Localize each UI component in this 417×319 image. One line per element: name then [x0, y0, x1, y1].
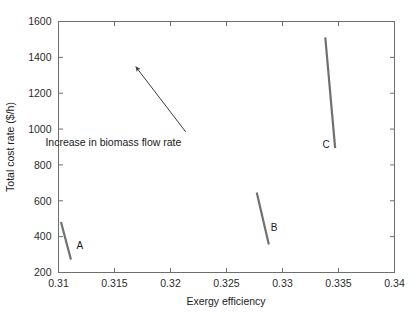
x-tick-label: 0.32 — [160, 277, 181, 289]
scatter-plot-figure: 0.310.3150.320.3250.330.3350.34 20040060… — [0, 0, 417, 319]
y-tick-label: 1200 — [28, 87, 52, 99]
y-tick-label: 600 — [34, 195, 52, 207]
y-tick-label: 800 — [34, 159, 52, 171]
series-label-a: A — [76, 240, 83, 251]
x-tick-label: 0.335 — [325, 277, 351, 289]
annotation-group: Increase in biomass flow rate — [45, 67, 185, 148]
y-tick-label: 1600 — [28, 15, 52, 27]
data-series-group — [61, 37, 335, 259]
y-tick-label: 1400 — [28, 51, 52, 63]
y-tick-label: 400 — [34, 230, 52, 242]
x-axis-tick-labels: 0.310.3150.320.3250.330.3350.34 — [48, 277, 405, 289]
y-tick-label: 1000 — [28, 123, 52, 135]
annotation-label: Increase in biomass flow rate — [45, 136, 181, 148]
series-label-b: B — [271, 222, 278, 233]
data-line-a — [61, 222, 71, 260]
y-tick-label: 200 — [34, 266, 52, 278]
x-tick-label: 0.33 — [272, 277, 293, 289]
data-line-b — [257, 193, 269, 245]
x-tick-label: 0.325 — [213, 277, 239, 289]
x-tick-label: 0.34 — [384, 277, 405, 289]
annotation-arrow — [136, 67, 186, 132]
series-label-group: ABC — [76, 139, 329, 251]
x-tick-label: 0.315 — [101, 277, 127, 289]
series-label-c: C — [323, 139, 330, 150]
x-axis-title: Exergy efficiency — [186, 295, 266, 307]
chart-page: 0.310.3150.320.3250.330.3350.34 20040060… — [0, 0, 417, 319]
data-line-c — [325, 37, 335, 148]
y-axis-title: Total cost rate ($/h) — [4, 102, 16, 192]
